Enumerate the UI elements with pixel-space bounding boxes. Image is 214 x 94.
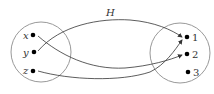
- element-label-3: 3: [193, 67, 199, 78]
- arrow-x-to-2: [38, 36, 182, 68]
- element-dot-y: [32, 50, 37, 55]
- codomain-set-circle: [150, 23, 210, 83]
- arrow-y-to-1: [38, 20, 182, 51]
- domain-set-circle: [11, 22, 71, 82]
- function-label: H: [105, 7, 115, 18]
- arrow-z-to-1: [38, 40, 182, 79]
- domain-elements: x y z: [22, 30, 36, 76]
- element-dot-z: [31, 69, 36, 74]
- element-label-y: y: [22, 47, 29, 58]
- element-dot-2: [185, 52, 190, 57]
- codomain-elements: 1 2 3: [185, 32, 200, 78]
- element-dot-3: [186, 70, 191, 75]
- element-label-1: 1: [192, 32, 198, 43]
- element-dot-1: [185, 35, 190, 40]
- element-label-x: x: [23, 30, 29, 41]
- element-label-z: z: [22, 65, 29, 76]
- function-diagram: H x y z 1 2 3: [0, 0, 214, 94]
- element-dot-x: [31, 33, 36, 38]
- element-label-2: 2: [192, 49, 198, 60]
